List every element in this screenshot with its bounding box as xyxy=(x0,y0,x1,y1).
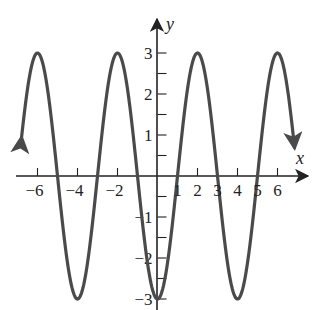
x-tick-label: −4 xyxy=(65,181,84,200)
zero-crossing-labels: 135 xyxy=(173,181,262,200)
x-tick-label: 2 xyxy=(193,181,202,200)
y-tick-label: 1 xyxy=(144,126,153,145)
y-tick-label: −2 xyxy=(134,249,152,268)
x-tick-label: −6 xyxy=(25,181,43,200)
x-tick-label: 5 xyxy=(253,181,262,200)
y-axis-label: y xyxy=(164,14,174,34)
x-tick-label: 3 xyxy=(213,181,222,200)
axes: x y xyxy=(16,14,308,310)
y-tick-label: 2 xyxy=(144,85,153,104)
x-tick-label: −2 xyxy=(105,181,123,200)
x-axis-label: x xyxy=(295,148,304,168)
x-tick-label: 4 xyxy=(233,181,242,200)
sinusoid-chart: x y −6−4−2246 −3−2−1123 135 xyxy=(0,0,312,310)
y-tick-label: −3 xyxy=(134,290,152,309)
x-tick-label: 6 xyxy=(273,181,282,200)
y-tick-label: 3 xyxy=(144,44,153,63)
x-tick-label: 1 xyxy=(173,181,182,200)
x-tick-labels: −6−4−2246 xyxy=(25,181,281,200)
